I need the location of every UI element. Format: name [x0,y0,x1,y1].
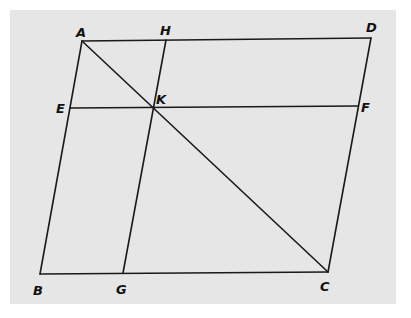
point-label-c: C [320,279,330,294]
point-label-d: D [366,20,377,35]
segment-EF [70,106,358,108]
segment-AD [82,38,371,41]
segment-AC [82,41,328,272]
point-label-a: A [75,25,86,40]
segment-BA [40,41,82,274]
segment-CB [40,272,328,274]
diagram-labels: AHDEKFBGC [33,20,377,298]
point-label-k: K [156,92,167,107]
segment-DC [328,38,371,272]
point-label-b: B [33,283,43,298]
point-label-g: G [116,282,127,297]
diagram-segments [40,38,371,274]
point-label-e: E [56,101,65,116]
point-label-f: F [361,100,370,115]
segment-HG [123,40,166,273]
parallelogram-diagram: AHDEKFBGC [0,0,411,318]
point-label-h: H [160,23,171,38]
